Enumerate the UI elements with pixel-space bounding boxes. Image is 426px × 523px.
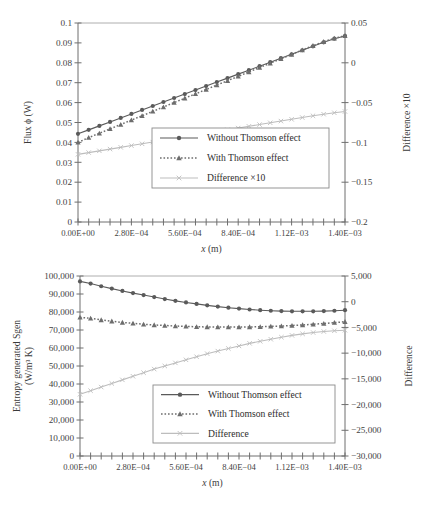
marker-circle	[237, 306, 241, 310]
right-axis-tick-label: −0.1	[351, 138, 368, 148]
legend-label: With Thomson effect	[207, 152, 289, 163]
marker-circle	[205, 303, 209, 307]
marker-triangle	[77, 315, 82, 320]
x-axis-tick-label: 8.40E−04	[221, 228, 255, 238]
x-axis-title: x (m)	[201, 477, 223, 489]
left-axis-tick-label: 30,000	[49, 397, 75, 407]
left-axis-tick-label: 0.02	[56, 177, 72, 187]
marker-circle	[322, 309, 326, 313]
marker-circle	[269, 309, 273, 313]
marker-circle	[152, 295, 156, 299]
left-axis-tick-label: 100,000	[44, 271, 74, 281]
right-axis-tick-label: −15,000	[351, 374, 382, 384]
left-axis-tick-label: 0	[69, 451, 74, 461]
marker-circle	[142, 293, 146, 297]
right-axis-tick-label: 0	[351, 297, 356, 307]
marker-circle	[279, 309, 283, 313]
chart-entropy: 010,00020,00030,00040,00050,00060,00070,…	[0, 262, 426, 523]
marker-triangle	[182, 96, 187, 101]
marker-circle	[195, 302, 199, 306]
marker-circle	[110, 287, 114, 291]
legend: Without Thomson effectWith Thomson effec…	[153, 385, 335, 443]
chart-svg: 010,00020,00030,00040,00050,00060,00070,…	[0, 262, 426, 523]
left-axis-tick-label: 0.08	[56, 58, 72, 68]
marker-triangle	[88, 316, 93, 321]
series-2	[77, 315, 347, 330]
marker-triangle	[152, 322, 157, 327]
marker-circle	[301, 309, 305, 313]
marker-triangle	[150, 109, 155, 114]
marker-circle	[172, 96, 176, 100]
marker-circle	[178, 392, 182, 396]
left-axis-title: Entropy generated Sgen	[11, 320, 22, 412]
series-line	[78, 36, 345, 134]
marker-triangle	[205, 324, 210, 329]
marker-circle	[248, 307, 252, 311]
x-axis-tick-label: 8.40E−04	[222, 462, 256, 472]
marker-circle	[119, 116, 123, 120]
marker-circle	[161, 100, 165, 104]
right-axis-tick-label: −0.15	[351, 177, 373, 187]
chart-flux: 00.010.020.030.040.050.060.070.080.090.1…	[0, 0, 426, 262]
left-axis-tick-label: 0.06	[56, 98, 72, 108]
marker-triangle	[183, 324, 188, 329]
left-axis-tick-label: 20,000	[49, 415, 75, 425]
marker-triangle	[161, 104, 166, 109]
marker-circle	[140, 108, 144, 112]
left-axis-tick-label: 40,000	[49, 379, 75, 389]
left-axis-tick-label: 0.05	[56, 118, 72, 128]
right-axis-tick-label: 0	[351, 58, 356, 68]
right-axis-tick-label: 0.05	[351, 18, 367, 28]
right-axis-tick-label: −30,000	[351, 451, 382, 461]
left-axis-tick-label: 0.09	[56, 38, 72, 48]
left-axis-title-units: (W/m³ K)	[23, 347, 35, 385]
right-axis-tick-label: 5,000	[351, 271, 372, 281]
marker-circle	[108, 120, 112, 124]
marker-triangle	[99, 317, 104, 322]
legend-label: Without Thomson effect	[208, 389, 302, 400]
x-axis-title: x (m)	[200, 243, 222, 255]
marker-circle	[89, 281, 93, 285]
marker-circle	[129, 112, 133, 116]
left-axis-tick-label: 0	[67, 217, 72, 227]
chart-svg: 00.010.020.030.040.050.060.070.080.090.1…	[0, 0, 426, 262]
series-1	[78, 279, 347, 313]
marker-triangle	[120, 320, 125, 325]
right-axis-tick-label: −20,000	[351, 400, 382, 410]
left-axis-title: Flux ϕ (W)	[22, 101, 34, 144]
left-axis-tick-label: 0.07	[56, 78, 72, 88]
marker-triangle	[109, 319, 114, 324]
right-axis-tick-label: −0.2	[351, 217, 368, 227]
left-axis-tick-label: 50,000	[49, 361, 75, 371]
x-axis-tick-label: 2.80E−04	[115, 228, 149, 238]
marker-triangle	[118, 122, 123, 127]
left-axis-tick-label: 0.1	[61, 18, 73, 28]
legend-label: With Thomson effect	[208, 408, 290, 419]
marker-triangle	[193, 91, 198, 96]
x-axis-title-text: x (m)	[201, 477, 223, 489]
x-axis-tick-label: 1.12E−03	[275, 462, 309, 472]
x-axis-tick-label: 0.00E+00	[61, 228, 95, 238]
right-axis-tick-label: −5,000	[351, 323, 377, 333]
left-axis-tick-label: 70,000	[49, 325, 75, 335]
series-line	[80, 317, 345, 327]
series-line	[78, 36, 345, 143]
marker-circle	[311, 309, 315, 313]
marker-circle	[177, 136, 181, 140]
left-axis-tick-label: 0.04	[56, 138, 72, 148]
marker-circle	[183, 92, 187, 96]
marker-circle	[87, 128, 91, 132]
legend-label: Without Thomson effect	[207, 132, 301, 143]
right-axis-tick-label: −10,000	[351, 348, 382, 358]
marker-triangle	[130, 321, 135, 326]
marker-circle	[131, 291, 135, 295]
legend-label: Difference	[208, 428, 249, 439]
x-axis-tick-label: 0.00E+00	[63, 462, 97, 472]
series-line	[80, 281, 345, 311]
marker-triangle	[86, 135, 91, 140]
left-axis-tick-label: 80,000	[49, 307, 75, 317]
marker-circle	[120, 289, 124, 293]
marker-triangle	[141, 322, 146, 327]
legend-label: Difference ×10	[207, 172, 265, 183]
marker-triangle	[162, 323, 167, 328]
